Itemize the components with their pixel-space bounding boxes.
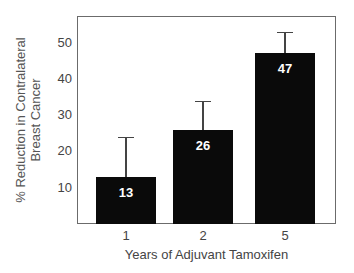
y-tick-label: 20 [42,144,72,158]
x-tick-label: 1 [111,228,141,243]
x-tick-label: 5 [270,228,300,243]
error-bar-cap [277,32,293,34]
bar-value-label: 26 [173,138,233,153]
y-tick-label: 40 [42,72,72,86]
bar-chart: % Reduction in Contralateral Breast Canc… [0,0,354,273]
bar-value-label: 47 [255,61,315,76]
bar-value-label: 13 [96,185,156,200]
y-axis-title: % Reduction in Contralateral Breast Canc… [13,37,43,202]
error-bar [284,32,286,54]
x-tick-label: 2 [188,228,218,243]
y-tick-label: 10 [42,181,72,195]
y-tick-label: 50 [42,36,72,50]
bar [255,53,315,224]
y-tick-label: 30 [42,108,72,122]
y-axis-title-line-1: % Reduction in Contralateral [13,37,28,202]
error-bar-cap [195,101,211,103]
error-bar [202,101,204,130]
x-axis-title: Years of Adjuvant Tamoxifen [77,247,336,262]
y-axis-title-line-2: Breast Cancer [28,37,43,202]
error-bar [125,137,127,177]
error-bar-cap [118,137,134,139]
